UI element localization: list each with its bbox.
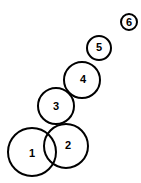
circle-5-label: 5 [96,41,102,53]
circle-4-label: 4 [80,73,87,85]
circle-2-label: 2 [65,139,71,151]
circle-2: 2 [44,124,88,168]
circle-1-label: 1 [29,147,35,159]
circle-5: 5 [87,36,111,60]
circle-4: 4 [64,62,100,98]
circle-3-label: 3 [53,100,59,112]
circle-1: 1 [8,128,56,176]
circle-6-label: 6 [126,16,132,28]
circle-6: 6 [121,14,137,30]
circle-diagram: 1 2 3 4 5 6 [0,0,141,183]
